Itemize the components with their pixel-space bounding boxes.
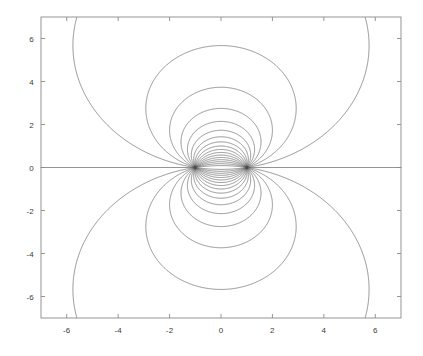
x-tick-label: 6 (373, 326, 378, 335)
chart-figure: -6-4-20246-6-4-20246 (0, 0, 423, 356)
x-tick-label: 2 (270, 326, 275, 335)
y-tick-label: -6 (18, 292, 34, 301)
streamline-plot-canvas (0, 0, 423, 356)
x-tick-label: 4 (322, 326, 327, 335)
y-tick-label: 4 (18, 77, 34, 86)
x-tick-label: -2 (166, 326, 174, 335)
plot-background (0, 0, 423, 356)
y-tick-label: -4 (18, 249, 34, 258)
x-tick-label: 0 (219, 326, 224, 335)
x-tick-label: -4 (114, 326, 122, 335)
x-tick-label: -6 (63, 326, 71, 335)
y-tick-label: -2 (18, 206, 34, 215)
y-tick-label: 6 (18, 34, 34, 43)
y-tick-label: 0 (18, 163, 34, 172)
y-tick-label: 2 (18, 120, 34, 129)
